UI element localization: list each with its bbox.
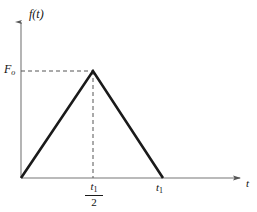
figure-canvas: f(t) t Fo t1 2 t1: [0, 0, 257, 212]
triangular-pulse-curve: [21, 71, 163, 178]
x-tick-label-t1-subscript: 1: [159, 186, 163, 195]
x-tick-label-t1-half-denominator: 2: [85, 196, 103, 208]
x-tick-label-t1: t1: [156, 182, 163, 195]
x-tick-label-t1-half-numerator-subscript: 1: [94, 185, 98, 194]
y-tick-label-f0: Fo: [4, 63, 15, 77]
x-tick-label-t1-half: t1 2: [85, 181, 103, 208]
x-tick-label-t1-half-numerator: t1: [85, 181, 103, 196]
plot-svg: [0, 0, 257, 212]
y-axis-label: f(t): [29, 8, 44, 20]
y-tick-label-f0-subscript: o: [11, 68, 15, 77]
x-axis-label: t: [246, 178, 249, 189]
